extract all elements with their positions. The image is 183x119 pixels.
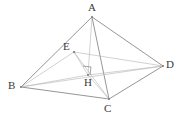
construction-edges: [21, 17, 163, 99]
edge-CD: [109, 66, 163, 99]
geometry-canvas: [0, 0, 183, 119]
vertex-label-E: E: [63, 41, 70, 52]
vertex-point-D: [162, 65, 164, 67]
vertex-label-D: D: [166, 59, 174, 70]
edge-BC: [21, 87, 109, 99]
vertex-point-E: [73, 51, 75, 53]
vertex-label-H: H: [84, 77, 92, 88]
vertex-points: [20, 16, 164, 100]
vertex-label-B: B: [8, 80, 15, 91]
edge-AC: [92, 17, 109, 99]
edge-EH: [74, 52, 88, 75]
edge-AB: [21, 17, 92, 87]
edge-DH: [88, 66, 163, 75]
vertex-label-A: A: [88, 2, 96, 13]
vertex-point-B: [20, 86, 22, 88]
edge-EB: [21, 52, 74, 87]
solid-outline-edges: [21, 17, 163, 99]
vertex-label-C: C: [104, 103, 111, 114]
edge-AD: [92, 17, 163, 66]
edge-ED: [74, 52, 163, 66]
vertex-point-A: [91, 16, 93, 18]
vertex-point-C: [108, 98, 110, 100]
geometry-figure: A B C D E H: [0, 0, 183, 119]
